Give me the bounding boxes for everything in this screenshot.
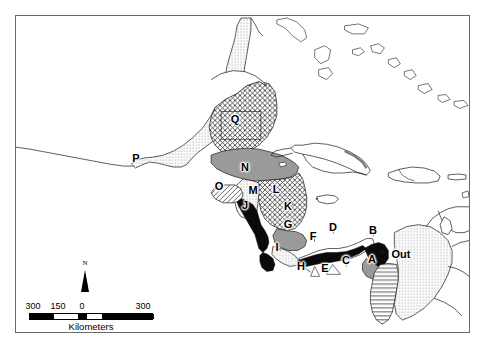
island-bahamas-4: [404, 70, 416, 80]
map-figure: A B C D E F G H I J K L M N O P Q Out N …: [0, 0, 488, 348]
scale-bar-caption: Kilometers: [29, 321, 153, 332]
scale-bar-ticks: 300 150 0 300: [29, 301, 169, 312]
scale-tick-0: 0: [79, 301, 84, 311]
scale-tick-150: 150: [50, 301, 65, 311]
scale-bar: 300 150 0 300 Kilometers: [29, 301, 169, 332]
island-bahamas-1: [353, 48, 365, 56]
map-label-N: N: [241, 162, 249, 173]
map-label-E: E: [321, 263, 328, 274]
island-bahamas-3: [388, 58, 400, 68]
scale-tick-300-right: 300: [135, 301, 150, 311]
scale-bar-graphic: [29, 313, 153, 320]
map-label-C: C: [342, 255, 350, 266]
south-america-interior-1: [452, 241, 469, 247]
north-arrow-triangle: [81, 270, 89, 292]
islet-dot-1: [316, 198, 318, 200]
mexico-pacific-coast: [16, 147, 133, 166]
map-label-L: L: [273, 184, 280, 195]
map-frame: A B C D E F G H I J K L M N O P Q Out N …: [15, 15, 470, 333]
island-jamaica: [317, 195, 339, 204]
scale-seg-1: [30, 314, 54, 319]
map-label-D: D: [329, 222, 337, 233]
region-colombia-hlines: [370, 263, 398, 324]
scale-tick-300-left: 300: [25, 301, 40, 311]
map-label-Out: Out: [392, 249, 411, 260]
map-label-G: G: [284, 219, 293, 230]
island-bahamas-7: [454, 100, 468, 108]
map-label-B: B: [369, 225, 377, 236]
map-label-O: O: [215, 181, 224, 192]
region-nicaragua-crosshatch: [257, 173, 307, 231]
island-bahamas-2: [370, 44, 384, 54]
map-label-I: I: [275, 242, 278, 253]
map-label-J: J: [242, 200, 248, 211]
island-grand-bahama: [345, 24, 369, 34]
leader-flag-e: [327, 264, 341, 274]
south-america-interior-2: [448, 266, 469, 276]
map-label-Q: Q: [231, 114, 240, 125]
scale-seg-2: [78, 314, 87, 319]
map-label-P: P: [132, 153, 139, 164]
map-label-H: H: [297, 261, 305, 272]
islet-dot-3: [381, 252, 383, 254]
map-label-K: K: [284, 201, 292, 212]
south-america-interior-3: [434, 298, 462, 316]
map-label-M: M: [248, 185, 257, 196]
map-label-F: F: [310, 231, 317, 242]
island-hispaniola: [388, 167, 440, 183]
map-label-A: A: [368, 254, 376, 265]
island-florida-keys: [277, 18, 307, 42]
north-arrow: N: [73, 259, 97, 299]
island-puertorico: [448, 174, 466, 180]
map-inset: N 300 150 0 300 Kilometers: [21, 259, 171, 329]
island-bahamas-5: [418, 84, 432, 94]
leader-flag-h: [311, 266, 320, 276]
island-bahamas-6: [438, 95, 450, 103]
island-andros-2: [319, 68, 333, 80]
mexico-north-edge: [251, 18, 263, 36]
scale-seg-3: [102, 314, 154, 319]
region-out-stipple: [394, 225, 452, 320]
north-arrow-label: N: [73, 259, 97, 267]
island-lesser-antilles: [462, 191, 469, 198]
island-andros: [315, 46, 331, 64]
